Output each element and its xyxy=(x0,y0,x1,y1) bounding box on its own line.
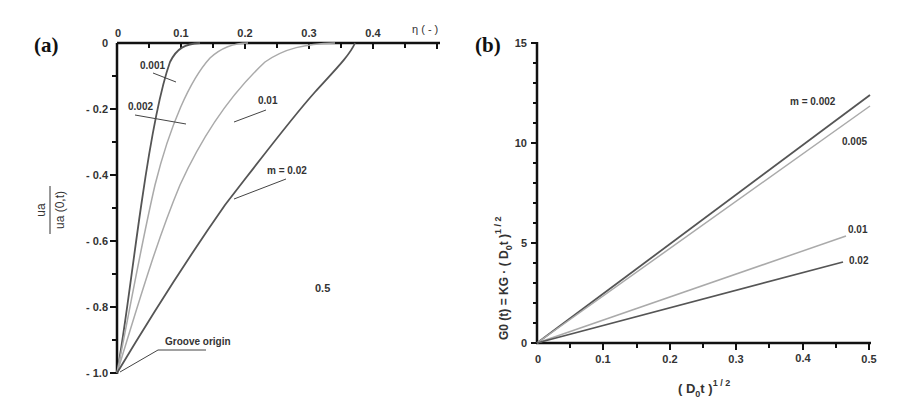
panel-a-x-axis-title: η ( - ) xyxy=(412,23,438,35)
line-m-0.01 xyxy=(537,236,846,343)
svg-text:0.3: 0.3 xyxy=(301,27,316,39)
svg-text:0.1: 0.1 xyxy=(595,353,610,365)
panel-b-label: (b) xyxy=(475,33,501,57)
svg-text:0.5: 0.5 xyxy=(861,353,876,365)
panel-a: (a) 0 0.1 0.2 0.3 0.4 η ( - ) xyxy=(34,23,440,379)
svg-text:0.4: 0.4 xyxy=(795,352,811,364)
svg-text:- 1.0: - 1.0 xyxy=(86,367,108,379)
svg-text:ua: ua xyxy=(34,203,48,217)
svg-text:0.4: 0.4 xyxy=(365,27,381,39)
label-m-0.005: 0.005 xyxy=(842,136,867,147)
svg-text:ua (0,t): ua (0,t) xyxy=(53,191,67,229)
svg-text:0.2: 0.2 xyxy=(662,353,677,365)
panel-b-x-tick-labels: 0 0.1 0.2 0.3 0.4 0.5 xyxy=(535,352,877,365)
svg-text:0.2: 0.2 xyxy=(237,27,252,39)
line-m-0.005 xyxy=(537,106,870,343)
line-m-0.02 xyxy=(537,262,843,343)
panel-b-x-axis-title: ( D0t )1 / 2 xyxy=(678,378,730,399)
panel-a-y-axis-title: ua ua (0,t) xyxy=(34,186,67,234)
svg-text:5: 5 xyxy=(521,237,527,249)
svg-text:- 0.4: - 0.4 xyxy=(86,169,109,181)
label-groove-origin: Groove origin xyxy=(165,336,231,347)
curve-m-0.002 xyxy=(117,43,248,373)
svg-text:0.1: 0.1 xyxy=(173,27,188,39)
svg-text:0: 0 xyxy=(521,337,527,349)
figure: (a) 0 0.1 0.2 0.3 0.4 η ( - ) xyxy=(0,0,915,413)
label-0.5: 0.5 xyxy=(315,282,330,294)
label-m-0.01: 0.01 xyxy=(258,95,278,106)
label-m-0.001: 0.001 xyxy=(140,60,165,71)
label-m-0.002: m = 0.002 xyxy=(790,96,836,107)
svg-text:- 0.8: - 0.8 xyxy=(86,301,108,313)
svg-text:10: 10 xyxy=(515,137,527,149)
svg-text:0: 0 xyxy=(102,37,108,49)
panel-b-y-axis-title: G0 (t) = KG · ( D0t )1 / 2 xyxy=(493,216,514,340)
svg-text:0: 0 xyxy=(115,27,121,39)
svg-text:- 0.6: - 0.6 xyxy=(86,235,108,247)
panel-a-label: (a) xyxy=(34,33,59,57)
svg-text:15: 15 xyxy=(515,37,527,49)
label-m-0.002: 0.002 xyxy=(128,101,153,112)
panel-b: (b) 0 5 10 15 xyxy=(475,33,877,399)
svg-text:0: 0 xyxy=(535,353,541,365)
line-m-0.002 xyxy=(537,95,870,343)
label-m-0.02: m = 0.02 xyxy=(267,165,307,176)
svg-text:- 0.2: - 0.2 xyxy=(86,103,108,115)
panel-a-x-tick-labels: 0 0.1 0.2 0.3 0.4 xyxy=(115,27,382,39)
label-m-0.02: 0.02 xyxy=(849,255,869,266)
svg-text:0.3: 0.3 xyxy=(728,353,743,365)
label-m-0.01: 0.01 xyxy=(848,224,868,235)
svg-text:G0 (t) = KG · ( D0t )1 / 2: G0 (t) = KG · ( D0t )1 / 2 xyxy=(493,216,514,340)
panel-a-y-tick-labels: 0 - 0.2 - 0.4 - 0.6 - 0.8 - 1.0 xyxy=(86,37,109,379)
panel-b-y-tick-labels: 0 5 10 15 xyxy=(515,37,527,349)
